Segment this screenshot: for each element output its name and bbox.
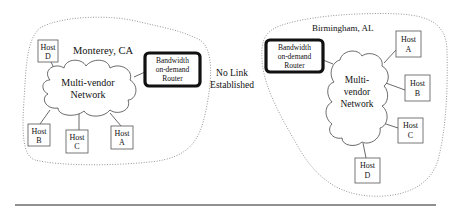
svg-text:D: D: [365, 171, 371, 180]
svg-text:Host: Host: [114, 129, 130, 138]
svg-text:B: B: [36, 136, 41, 145]
svg-text:A: A: [119, 138, 125, 147]
svg-text:No Link: No Link: [216, 68, 248, 78]
site-monterey: Monterey, CA Multi-vendor Network Bandwi…: [23, 17, 211, 165]
router-birmingham: Bandwidth on-demand Router: [266, 40, 323, 72]
network-label-line1: Multi-vendor: [61, 77, 115, 88]
svg-text:on-demand: on-demand: [156, 65, 190, 74]
svg-text:Host: Host: [403, 121, 419, 130]
svg-text:Router: Router: [284, 61, 305, 70]
location-label-monterey: Monterey, CA: [73, 45, 133, 56]
network-label-line1: Multi-: [345, 75, 369, 85]
host-a-monterey: Host A: [111, 126, 133, 149]
svg-text:Host: Host: [401, 35, 417, 44]
svg-text:Host: Host: [360, 161, 376, 170]
svg-text:D: D: [45, 52, 51, 61]
host-d-birmingham: Host D: [355, 158, 380, 183]
svg-text:B: B: [415, 89, 420, 98]
svg-text:A: A: [406, 45, 412, 54]
network-label-line3: Network: [340, 99, 373, 109]
network-diagram: Monterey, CA Multi-vendor Network Bandwi…: [0, 0, 455, 210]
host-b-monterey: Host B: [28, 124, 50, 146]
host-c-monterey: Host C: [66, 130, 88, 153]
link-status: No Link Established: [210, 68, 254, 90]
network-label-line2: Network: [71, 89, 106, 100]
site-birmingham: Birmingham, AL Multi- vendor Network Ban…: [262, 14, 447, 197]
link-host-d-network: [363, 143, 366, 158]
host-b-birmingham: Host B: [405, 75, 430, 101]
link-host-b-network: [40, 110, 50, 124]
link-host-a-network: [110, 113, 121, 126]
svg-text:on-demand: on-demand: [278, 52, 312, 61]
network-label-line2: vendor: [344, 87, 371, 97]
link-host-a-network: [384, 50, 396, 63]
svg-text:Established: Established: [210, 80, 254, 90]
svg-text:Bandwidth: Bandwidth: [156, 56, 189, 65]
host-c-birmingham: Host C: [398, 118, 423, 143]
svg-text:Router: Router: [162, 74, 183, 83]
svg-text:Host: Host: [69, 133, 85, 142]
host-d-monterey: Host D: [38, 40, 58, 62]
svg-text:Host: Host: [31, 127, 47, 136]
svg-text:Host: Host: [410, 79, 426, 88]
router-monterey: Bandwidth on-demand Router: [145, 53, 200, 86]
location-label-birmingham: Birmingham, AL: [312, 23, 374, 33]
svg-text:Bandwidth: Bandwidth: [278, 43, 311, 52]
svg-text:C: C: [74, 142, 79, 151]
svg-text:Host: Host: [40, 43, 56, 52]
host-a-birmingham: Host A: [396, 31, 421, 57]
link-network-router: [134, 72, 145, 77]
svg-text:C: C: [408, 131, 413, 140]
